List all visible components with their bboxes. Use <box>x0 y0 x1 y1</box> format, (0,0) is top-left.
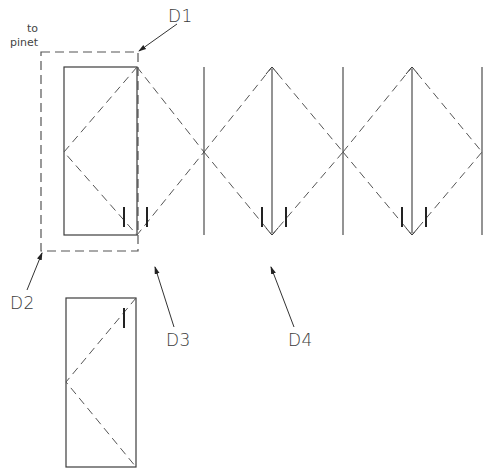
lower-cabinet-door <box>66 298 136 467</box>
double-door-1 <box>204 67 343 235</box>
cabinet-door-pair-1 <box>137 67 204 235</box>
callout-d2: D2 <box>10 293 35 313</box>
callout-d3: D3 <box>166 330 191 350</box>
callout-d4: D4 <box>288 330 313 350</box>
upper-cabinet-door <box>64 67 137 235</box>
d2-leader-arrow <box>27 253 42 290</box>
callout-d1: D1 <box>168 6 193 26</box>
cabinet-elevation-drawing <box>0 0 485 474</box>
d1-leader-arrow <box>139 24 177 51</box>
d3-leader-arrow <box>155 267 174 327</box>
d4-leader-arrow <box>271 267 294 327</box>
double-door-2 <box>343 67 482 235</box>
